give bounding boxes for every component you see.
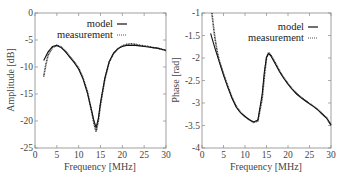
x-tick-label: 10 <box>240 150 250 160</box>
x-tick-label: 30 <box>326 150 336 160</box>
legend-measurement-label: measurement <box>248 32 304 43</box>
legend-model-label: model <box>87 18 113 29</box>
x-tick-label: 0 <box>33 150 38 160</box>
amplitude-measurement-line <box>44 44 166 132</box>
amplitude-x-axis-label: Frequency [MHz] <box>64 161 136 172</box>
amplitude-model-line <box>44 45 166 127</box>
phase-model-line <box>211 33 331 124</box>
legend-model-label: model <box>278 21 304 32</box>
y-tick-label: -25 <box>20 143 33 153</box>
y-tick-label: -20 <box>20 116 33 126</box>
y-tick-label: -3.5 <box>185 121 200 131</box>
x-tick-label: 10 <box>74 150 84 160</box>
amplitude-plot: 0-5-10-15-20-25 051015202530 Frequency [… <box>5 8 171 172</box>
x-tick-label: 20 <box>283 150 293 160</box>
x-tick-label: 15 <box>96 150 106 160</box>
x-tick-label: 5 <box>54 150 59 160</box>
phase-plot: -1-1.5-2-2.5-3-3.5-4 051015202530 Freque… <box>170 8 336 172</box>
phase-x-axis-label: Frequency [MHz] <box>230 161 302 172</box>
x-tick-label: 25 <box>305 150 315 160</box>
x-tick-label: 0 <box>200 150 205 160</box>
x-tick-label: 25 <box>139 150 149 160</box>
y-tick-label: -2 <box>192 53 200 63</box>
phase-y-ticks: -1-1.5-2-2.5-3-3.5-4 <box>185 8 331 153</box>
y-tick-label: -2.5 <box>185 76 200 86</box>
phase-legend: model measurement <box>248 21 318 43</box>
amplitude-legend: model measurement <box>57 18 127 40</box>
phase-measurement-line <box>212 13 331 126</box>
y-tick-label: -5 <box>25 35 33 45</box>
x-tick-label: 20 <box>118 150 128 160</box>
y-tick-label: -1 <box>192 8 200 18</box>
phase-y-axis-label: Phase [rad] <box>170 57 181 102</box>
figure: 0-5-10-15-20-25 051015202530 Frequency [… <box>0 0 348 183</box>
y-tick-label: -15 <box>20 89 33 99</box>
y-tick-label: -10 <box>20 62 33 72</box>
x-tick-label: 5 <box>221 150 226 160</box>
y-tick-label: -1.5 <box>185 31 200 41</box>
y-tick-label: -3 <box>192 98 200 108</box>
y-tick-label: 0 <box>28 8 33 18</box>
legend-measurement-label: measurement <box>57 29 113 40</box>
x-tick-label: 15 <box>262 150 272 160</box>
amplitude-y-axis-label: Amplitude [dB] <box>5 48 16 112</box>
x-tick-label: 30 <box>161 150 171 160</box>
